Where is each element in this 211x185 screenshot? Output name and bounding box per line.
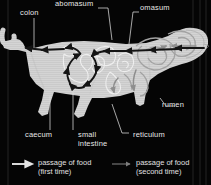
- label-small-intestine: small intestine small intestine: [78, 131, 107, 148]
- label-small-intestine-line-b: intestine: [78, 139, 107, 148]
- legend-first-line2: (first time): [38, 167, 71, 176]
- legend-first-item: passage of food (first time): [38, 159, 91, 176]
- label-abomasum: abomasum: [55, 0, 93, 9]
- diagram-canvas: colon abomasum omasum rumen caecum small…: [0, 0, 211, 185]
- label-reticulum: reticulum: [133, 131, 165, 140]
- legend-second-item: passage of food (second time): [136, 159, 189, 176]
- legend-second-line2: (second time): [136, 167, 181, 176]
- label-rumen: rumen: [162, 101, 184, 110]
- label-caecum: caecum: [25, 131, 52, 140]
- label-omasum: omasum: [140, 4, 170, 13]
- label-colon: colon: [20, 9, 39, 18]
